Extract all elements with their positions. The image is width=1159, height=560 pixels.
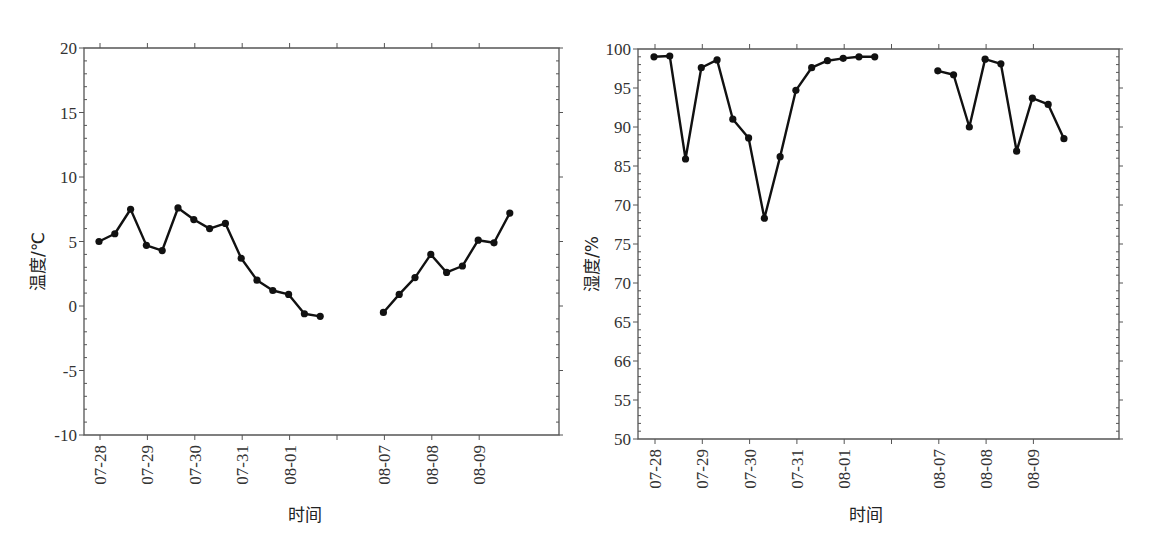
data-point bbox=[666, 52, 673, 59]
y-tick-label: 100 bbox=[606, 40, 632, 59]
y-tick-label: 10 bbox=[60, 168, 77, 187]
y-tick-label: 20 bbox=[60, 39, 77, 58]
x-tick-label: 07-31 bbox=[788, 449, 807, 489]
x-tick-label: 08-07 bbox=[375, 445, 394, 485]
data-point bbox=[159, 247, 166, 254]
y-tick-label: 15 bbox=[60, 104, 77, 123]
data-point bbox=[840, 55, 847, 62]
data-point bbox=[111, 230, 118, 237]
data-point bbox=[253, 277, 260, 284]
x-tick-label: 08-08 bbox=[423, 445, 442, 485]
data-point bbox=[475, 237, 482, 244]
data-point bbox=[127, 206, 134, 213]
temperature-chart: 20151050-5-1007-2807-2907-3007-3108-0108… bbox=[0, 0, 580, 560]
data-point bbox=[174, 204, 181, 211]
y-tick-label: 70 bbox=[614, 274, 631, 293]
y-tick-label: 95 bbox=[614, 79, 631, 98]
data-point bbox=[966, 123, 973, 130]
y-tick-label: 50 bbox=[614, 430, 631, 449]
data-point bbox=[443, 269, 450, 276]
x-tick-label: 08-09 bbox=[470, 445, 489, 485]
data-line-segment-1 bbox=[654, 56, 875, 218]
data-line-segment-2 bbox=[383, 213, 509, 312]
x-tick-label: 07-31 bbox=[233, 445, 252, 485]
data-point bbox=[411, 274, 418, 281]
x-tick-label: 08-07 bbox=[930, 449, 949, 489]
data-point bbox=[745, 134, 752, 141]
data-point bbox=[1013, 148, 1020, 155]
data-point bbox=[713, 56, 720, 63]
data-point bbox=[238, 255, 245, 262]
x-tick-label: 08-08 bbox=[977, 449, 996, 489]
data-point bbox=[997, 60, 1004, 67]
data-point bbox=[459, 262, 466, 269]
humidity-chart: 1009590857075706566555007-2807-2907-3007… bbox=[580, 0, 1159, 560]
x-axis-title: 时间 bbox=[288, 505, 322, 525]
data-point bbox=[1029, 95, 1036, 102]
x-tick-label: 08-01 bbox=[835, 449, 854, 489]
data-point bbox=[95, 238, 102, 245]
data-point bbox=[729, 116, 736, 123]
data-point bbox=[285, 291, 292, 298]
data-point bbox=[982, 56, 989, 63]
x-tick-label: 07-29 bbox=[138, 445, 157, 485]
x-tick-label: 07-30 bbox=[186, 445, 205, 485]
y-tick-label: 90 bbox=[614, 118, 631, 137]
data-point bbox=[650, 53, 657, 60]
y-tick-label: 5 bbox=[69, 233, 78, 252]
y-axis-title: 温度/℃ bbox=[28, 232, 48, 291]
data-point bbox=[380, 309, 387, 316]
x-tick-label: 07-28 bbox=[646, 449, 665, 489]
data-point bbox=[777, 153, 784, 160]
humidity-plot: 1009590857075706566555007-2807-2907-3007… bbox=[580, 0, 1159, 560]
y-tick-label: 66 bbox=[614, 352, 631, 371]
y-tick-label: 70 bbox=[614, 196, 631, 215]
data-point bbox=[934, 67, 941, 74]
data-point bbox=[301, 310, 308, 317]
data-point bbox=[206, 225, 213, 232]
data-line-segment-1 bbox=[99, 208, 320, 316]
data-point bbox=[143, 242, 150, 249]
x-tick-label: 07-29 bbox=[693, 449, 712, 489]
y-tick-label: -5 bbox=[63, 362, 77, 381]
data-point bbox=[761, 215, 768, 222]
data-point bbox=[396, 291, 403, 298]
data-point bbox=[808, 64, 815, 71]
data-point bbox=[490, 239, 497, 246]
temperature-plot: 20151050-5-1007-2807-2907-3007-3108-0108… bbox=[0, 0, 580, 560]
y-tick-label: 85 bbox=[614, 157, 631, 176]
x-axis-title: 时间 bbox=[849, 505, 883, 525]
data-point bbox=[682, 155, 689, 162]
data-point bbox=[1045, 101, 1052, 108]
data-point bbox=[269, 287, 276, 294]
data-point bbox=[824, 57, 831, 64]
x-tick-label: 08-09 bbox=[1024, 449, 1043, 489]
x-tick-label: 07-30 bbox=[741, 449, 760, 489]
data-point bbox=[317, 313, 324, 320]
data-point bbox=[950, 71, 957, 78]
data-point bbox=[506, 210, 513, 217]
data-point bbox=[427, 251, 434, 258]
y-tick-label: 55 bbox=[614, 391, 631, 410]
data-point bbox=[190, 216, 197, 223]
y-axis-title: 湿度/% bbox=[582, 236, 602, 292]
data-point bbox=[871, 53, 878, 60]
data-point bbox=[792, 87, 799, 94]
y-tick-label: 0 bbox=[69, 297, 78, 316]
x-tick-label: 08-01 bbox=[281, 445, 300, 485]
data-point bbox=[1060, 135, 1067, 142]
data-point bbox=[855, 53, 862, 60]
data-point bbox=[698, 64, 705, 71]
y-tick-label: 75 bbox=[614, 235, 631, 254]
y-tick-label: -10 bbox=[54, 426, 77, 445]
x-tick-label: 07-28 bbox=[91, 445, 110, 485]
y-tick-label: 65 bbox=[614, 313, 631, 332]
data-point bbox=[222, 220, 229, 227]
